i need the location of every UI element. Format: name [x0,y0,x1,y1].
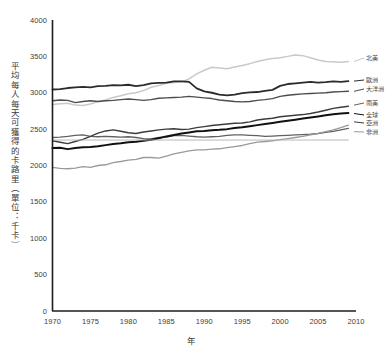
x-tick-label: 1990 [187,317,221,326]
legend-label-3: 南美 [366,100,378,107]
x-tick-label: 2010 [339,317,373,326]
legend-connector [354,89,364,91]
y-axis-title: 平均每人每天可獲得的卡路里（單位：千卡） [1,62,18,250]
y-tick-label: 3500 [13,52,47,61]
y-tick-label: 0 [13,307,47,316]
series-line-5 [53,106,349,143]
legend-connector-lines [354,58,364,132]
x-axis-title: 年 [0,334,383,346]
y-tick-label: 4000 [13,16,47,25]
x-tick-label: 1970 [36,317,70,326]
legend-label-0: 北美 [366,55,378,62]
x-tick-label: 1995 [225,317,259,326]
x-tick-label: 1975 [73,317,107,326]
series-line-2 [53,91,349,102]
series-line-4 [53,113,349,149]
legend-label-1: 歐洲 [366,77,378,84]
legend-label-5: 亞洲 [366,120,378,127]
legend-label-2: 大洋洲 [366,86,385,93]
legend-label-6: 非洲 [366,129,378,136]
legend-connector [354,80,364,81]
legend-connector [354,58,364,61]
x-tick-label: 1980 [111,317,145,326]
x-tick-label: 1985 [149,317,183,326]
legend-connector [354,113,364,115]
x-tick-label: 2000 [263,317,297,326]
series-lines [53,55,349,169]
legend-label-4: 全球 [366,112,378,119]
legend-connector [354,103,364,105]
x-tick-label: 2005 [301,317,335,326]
y-tick-label: 500 [13,270,47,279]
legend-connector [354,122,364,123]
